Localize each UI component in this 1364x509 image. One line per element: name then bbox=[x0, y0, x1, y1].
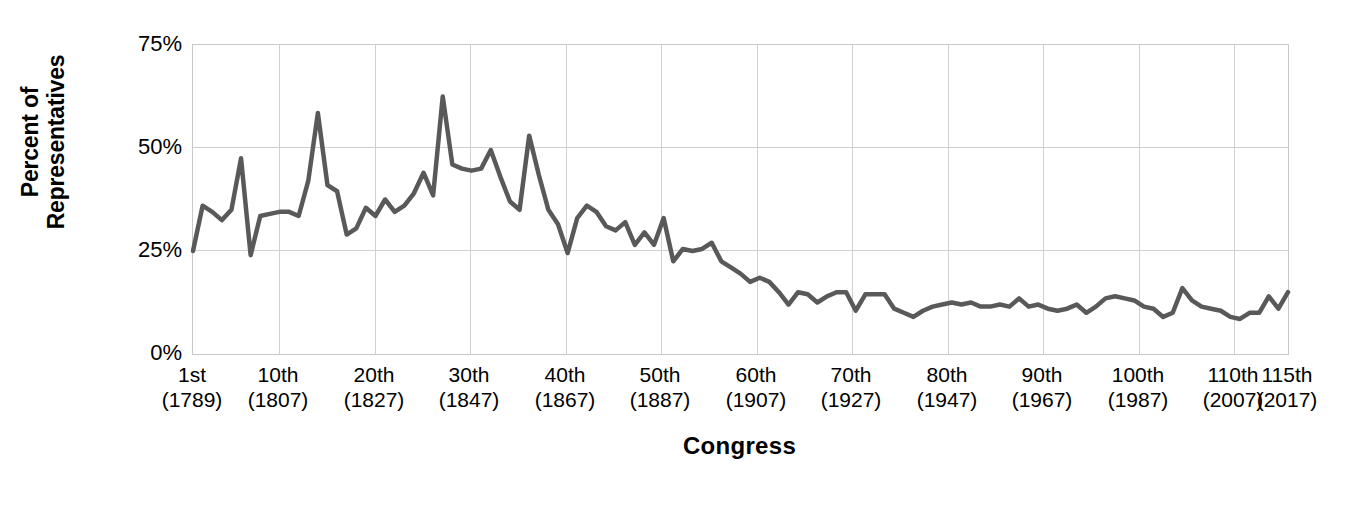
x-tick-20th: 20th (1827) bbox=[319, 362, 429, 412]
x-tick-ordinal: 70th bbox=[796, 362, 906, 387]
y-tick-75: 75% bbox=[62, 33, 182, 55]
x-tick-year: (1927) bbox=[796, 387, 906, 412]
x-tick-ordinal: 90th bbox=[987, 362, 1097, 387]
x-tick-year: (1867) bbox=[510, 387, 620, 412]
x-tick-60th: 60th (1907) bbox=[701, 362, 811, 412]
x-tick-year: (1847) bbox=[414, 387, 524, 412]
x-tick-30th: 30th (1847) bbox=[414, 362, 524, 412]
x-tick-ordinal: 80th bbox=[892, 362, 1002, 387]
y-tick-50: 50% bbox=[62, 136, 182, 158]
x-tick-ordinal: 10th bbox=[223, 362, 333, 387]
x-axis-tick-labels: 1st (1789) 10th (1807) 20th (1827) 30th … bbox=[192, 362, 1292, 422]
x-tick-year: (1827) bbox=[319, 387, 429, 412]
x-tick-year: (1887) bbox=[605, 387, 715, 412]
x-tick-100th: 100th (1987) bbox=[1083, 362, 1193, 412]
x-tick-ordinal: 115th bbox=[1232, 362, 1342, 387]
x-tick-80th: 80th (1947) bbox=[892, 362, 1002, 412]
x-tick-year: (1967) bbox=[987, 387, 1097, 412]
x-tick-year: (1907) bbox=[701, 387, 811, 412]
chart-figure: Percent ofRepresentatives 75% 50% 25% 0%… bbox=[0, 0, 1364, 509]
x-tick-year: (1807) bbox=[223, 387, 333, 412]
x-axis-title: Congress bbox=[192, 432, 1287, 460]
x-tick-ordinal: 40th bbox=[510, 362, 620, 387]
x-tick-ordinal: 60th bbox=[701, 362, 811, 387]
plot-area bbox=[192, 44, 1289, 355]
series-line-percent-representatives bbox=[193, 97, 1288, 319]
x-tick-10th: 10th (1807) bbox=[223, 362, 333, 412]
data-series-svg bbox=[193, 45, 1288, 354]
x-tick-ordinal: 20th bbox=[319, 362, 429, 387]
x-tick-ordinal: 50th bbox=[605, 362, 715, 387]
y-tick-25: 25% bbox=[62, 239, 182, 261]
x-tick-50th: 50th (1887) bbox=[605, 362, 715, 412]
x-tick-40th: 40th (1867) bbox=[510, 362, 620, 412]
x-tick-70th: 70th (1927) bbox=[796, 362, 906, 412]
x-tick-year: (2017) bbox=[1232, 387, 1342, 412]
x-tick-year: (1987) bbox=[1083, 387, 1193, 412]
y-axis-tick-labels: 75% 50% 25% 0% bbox=[0, 0, 192, 509]
x-tick-115th: 115th (2017) bbox=[1232, 362, 1342, 412]
x-tick-ordinal: 100th bbox=[1083, 362, 1193, 387]
x-tick-90th: 90th (1967) bbox=[987, 362, 1097, 412]
x-tick-year: (1947) bbox=[892, 387, 1002, 412]
x-tick-ordinal: 30th bbox=[414, 362, 524, 387]
y-tick-0: 0% bbox=[62, 342, 182, 364]
